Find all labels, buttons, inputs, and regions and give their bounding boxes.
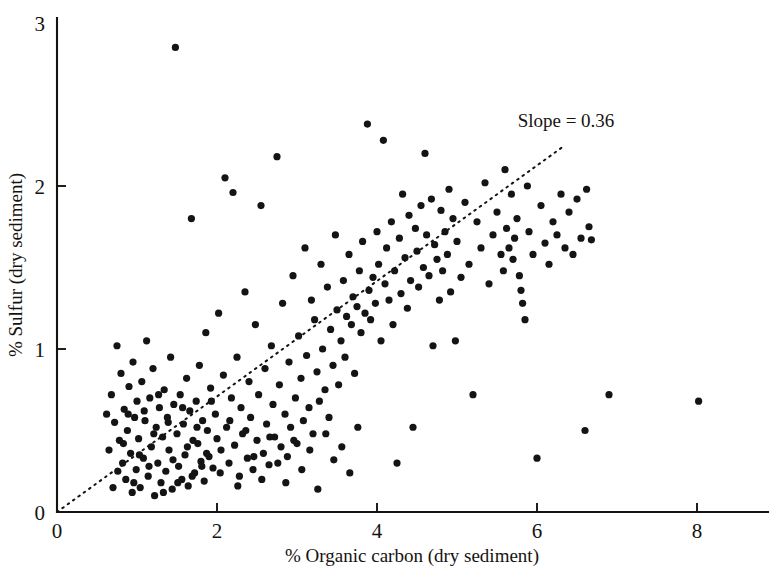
data-point: [497, 251, 504, 258]
data-point: [340, 277, 347, 284]
data-point: [361, 310, 368, 317]
data-point: [391, 267, 398, 274]
data-point: [120, 440, 127, 447]
data-point: [541, 239, 548, 246]
data-point: [141, 407, 148, 414]
data-point: [207, 385, 214, 392]
data-point: [237, 404, 244, 411]
data-point: [225, 460, 232, 467]
y-axis-title: % Sulfur (dry sediment): [5, 173, 27, 357]
data-point: [314, 486, 321, 493]
data-point: [444, 251, 451, 258]
data-point: [405, 212, 412, 219]
data-point: [184, 443, 191, 450]
data-point: [404, 305, 411, 312]
data-point: [516, 272, 523, 279]
data-point: [125, 411, 132, 418]
data-point: [159, 433, 166, 440]
data-point: [517, 287, 524, 294]
x-tick-label: 6: [532, 519, 543, 543]
figure-background: [0, 0, 777, 577]
data-point: [338, 443, 345, 450]
data-point: [365, 287, 372, 294]
x-tick-label: 2: [212, 519, 223, 543]
data-point: [186, 407, 193, 414]
data-point: [217, 446, 224, 453]
data-point: [508, 191, 515, 198]
data-point: [399, 191, 406, 198]
data-point: [489, 231, 496, 238]
data-point: [129, 489, 136, 496]
data-point: [447, 288, 454, 295]
data-point: [349, 293, 356, 300]
data-point: [373, 228, 380, 235]
data-point: [183, 375, 190, 382]
data-point: [135, 435, 142, 442]
data-point: [413, 248, 420, 255]
data-point: [585, 223, 592, 230]
data-point: [263, 420, 270, 427]
data-point: [229, 189, 236, 196]
data-point: [145, 463, 152, 470]
data-point: [381, 280, 388, 287]
data-point: [260, 450, 267, 457]
data-point: [524, 182, 531, 189]
data-point: [351, 370, 358, 377]
data-point: [198, 463, 205, 470]
y-tick-label: 1: [35, 338, 46, 362]
data-point: [188, 215, 195, 222]
data-point: [125, 383, 132, 390]
data-point: [165, 419, 172, 426]
data-point: [549, 218, 556, 225]
data-point: [268, 342, 275, 349]
data-point: [194, 440, 201, 447]
data-point: [457, 274, 464, 281]
scatter-plot-figure: 02468 0123 % Organic carbon (dry sedimen…: [0, 0, 777, 577]
data-point: [257, 202, 264, 209]
data-point: [245, 378, 252, 385]
data-point: [247, 414, 254, 421]
data-point: [203, 450, 210, 457]
data-point: [131, 414, 138, 421]
data-point: [577, 235, 584, 242]
data-point: [500, 267, 507, 274]
data-point: [525, 228, 532, 235]
data-point: [417, 202, 424, 209]
data-point: [209, 464, 216, 471]
data-point: [461, 199, 468, 206]
data-point: [409, 424, 416, 431]
data-point: [493, 208, 500, 215]
data-point: [316, 398, 323, 405]
data-point: [185, 482, 192, 489]
data-point: [303, 352, 310, 359]
data-point: [149, 365, 156, 372]
data-point: [258, 476, 265, 483]
data-point: [383, 244, 390, 251]
data-point: [269, 401, 276, 408]
data-point: [253, 437, 260, 444]
data-point: [228, 394, 235, 401]
data-point: [509, 256, 516, 263]
data-point: [388, 218, 395, 225]
data-point: [348, 321, 355, 328]
data-point: [220, 371, 227, 378]
scatter-plot-canvas: 02468 0123 % Organic carbon (dry sedimen…: [0, 0, 777, 577]
data-point: [213, 435, 220, 442]
slope-annotation: Slope = 0.36: [518, 110, 615, 131]
data-point: [505, 244, 512, 251]
data-point: [421, 150, 428, 157]
data-point: [317, 261, 324, 268]
x-tick-label: 4: [372, 519, 383, 543]
y-tick-label: 3: [35, 12, 46, 36]
data-point: [356, 267, 363, 274]
data-point: [113, 342, 120, 349]
data-point: [306, 446, 313, 453]
data-point: [425, 272, 432, 279]
data-point: [167, 354, 174, 361]
data-point: [415, 283, 422, 290]
data-point: [114, 468, 121, 475]
data-point: [343, 313, 350, 320]
data-point: [170, 401, 177, 408]
data-point: [223, 424, 230, 431]
data-point: [503, 225, 510, 232]
